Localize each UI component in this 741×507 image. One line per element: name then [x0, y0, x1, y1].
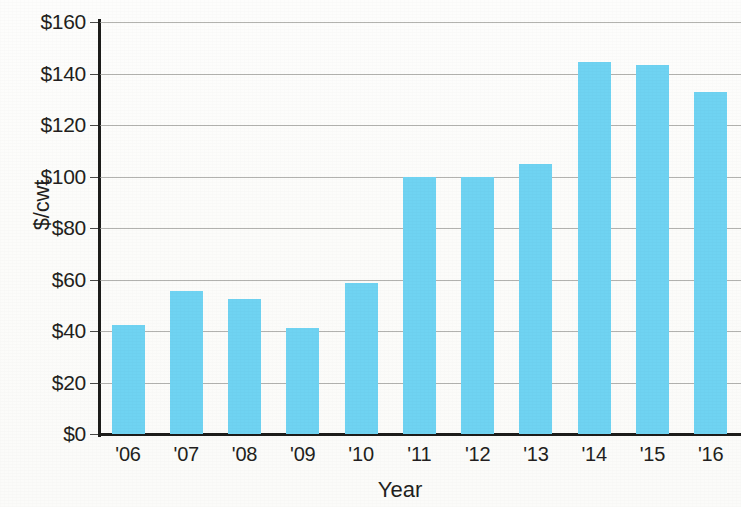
gridline: [100, 22, 741, 23]
bar: [461, 177, 494, 435]
bar: [170, 291, 203, 434]
y-axis-tick-label: $160: [40, 10, 86, 34]
bar: [694, 92, 727, 434]
bar: [636, 65, 669, 435]
y-axis-tick-label: $20: [52, 371, 86, 395]
plot-area: [100, 22, 741, 434]
y-axis-title: $/cwt: [29, 145, 55, 265]
bar: [286, 328, 319, 434]
y-axis-tick-label: $140: [40, 62, 86, 86]
x-axis-tick-label: '16: [671, 443, 741, 466]
bar: [345, 283, 378, 434]
bar: [112, 325, 145, 434]
y-axis-tick-label: $0: [63, 422, 86, 446]
y-axis-tick-label: $80: [52, 216, 86, 240]
bar: [228, 299, 261, 434]
x-axis-title: Year: [0, 477, 741, 503]
bar-chart: $/cwt $0$20$40$60$80$100$120$140$160 '06…: [0, 0, 741, 507]
y-axis-tick-label: $60: [52, 268, 86, 292]
bar: [403, 177, 436, 435]
y-axis-tick-label: $100: [40, 165, 86, 189]
y-axis-tick-label: $40: [52, 319, 86, 343]
bar: [519, 164, 552, 434]
bar: [578, 62, 611, 434]
y-axis-tick-label: $120: [40, 113, 86, 137]
